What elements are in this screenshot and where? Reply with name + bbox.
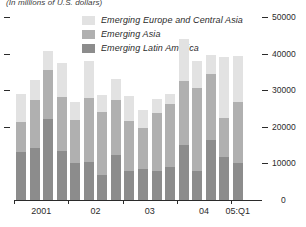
y-tick-label-right: 40000 [272, 49, 296, 59]
bar-segment-eeca [124, 96, 134, 122]
bar-segment-lat [124, 171, 134, 200]
bar-04-Q2 [192, 61, 202, 200]
x-tick-label: 05:Q1 [226, 206, 251, 216]
bar-segment-lat [111, 155, 121, 200]
bar-04-Q1 [179, 39, 189, 200]
bar-04-Q4 [219, 57, 229, 200]
bar-segment-asia [192, 88, 202, 170]
bar-segment-eeca [30, 80, 40, 100]
bar-segment-lat [97, 175, 107, 200]
y-tick-label-right: 20000 [272, 122, 296, 132]
bar-03-Q2 [138, 110, 148, 200]
bar-03-Q3 [152, 99, 162, 200]
bar-segment-asia [138, 128, 148, 169]
y-tick-left [4, 54, 10, 55]
bar-segment-eeca [84, 61, 94, 97]
chart-subtitle: (In millions of U.S. dollars) [6, 0, 102, 7]
x-tick-label: 04 [199, 206, 209, 216]
bar-segment-lat [70, 163, 80, 200]
y-tick-left [4, 17, 10, 18]
bar-segment-eeca [233, 56, 243, 102]
bar-segment-asia [206, 74, 216, 140]
bar-segment-asia [30, 100, 40, 148]
bar-segment-asia [152, 113, 162, 172]
bar-segment-lat [84, 162, 94, 200]
bar-segment-asia [43, 70, 53, 118]
y-tick-label-right: 10000 [272, 158, 296, 168]
bar-segment-lat [192, 171, 202, 200]
bar-segment-asia [57, 97, 67, 151]
bar-segment-asia [111, 100, 121, 154]
bar-segment-lat [43, 119, 53, 200]
bar-segment-asia [84, 98, 94, 162]
y-tick-right [262, 163, 268, 164]
y-tick-right [262, 127, 268, 128]
x-tick [177, 200, 178, 204]
x-tick [231, 200, 232, 204]
bar-03-Q1 [124, 96, 134, 200]
bar-2001-Q1 [16, 94, 26, 200]
bar-02-Q3 [97, 95, 107, 200]
bar-segment-asia [179, 81, 189, 145]
bar-segment-lat [138, 169, 148, 200]
bar-segment-asia [16, 122, 26, 151]
bar-2001-Q4 [57, 63, 67, 200]
y-tick-label-right: 50000 [272, 12, 296, 22]
bar-02-Q2 [84, 61, 94, 200]
bar-segment-eeca [192, 61, 202, 88]
y-tick-right [262, 90, 268, 91]
bar-segment-lat [16, 152, 26, 200]
bar-03-Q4 [165, 94, 175, 200]
chart-container: (In millions of U.S. dollars) Emerging E… [0, 0, 306, 227]
x-tick [123, 200, 124, 204]
bar-segment-lat [219, 157, 229, 200]
bar-segment-asia [233, 102, 243, 163]
bar-segment-eeca [165, 94, 175, 104]
y-tick-label-right: 0 [281, 195, 286, 205]
bar-segment-lat [165, 167, 175, 200]
x-tick [14, 200, 15, 204]
bar-05-Q1 [233, 56, 243, 200]
bar-segment-asia [219, 118, 229, 158]
plot-area [14, 17, 260, 200]
y-tick-left [4, 127, 10, 128]
bar-segment-eeca [152, 99, 162, 113]
bar-segment-lat [233, 163, 243, 200]
bar-segment-eeca [43, 51, 53, 71]
bar-segment-eeca [111, 79, 121, 100]
bar-02-Q1 [70, 102, 80, 200]
y-tick-label-right: 30000 [272, 85, 296, 95]
bar-segment-eeca [97, 95, 107, 113]
y-tick-right [262, 17, 268, 18]
bar-segment-eeca [138, 110, 148, 128]
bar-segment-lat [57, 151, 67, 200]
bar-04-Q3 [206, 55, 216, 200]
bar-segment-eeca [57, 63, 67, 97]
bar-segment-eeca [16, 94, 26, 123]
bar-segment-eeca [219, 57, 229, 118]
bar-2001-Q2 [30, 80, 40, 200]
x-tick-label: 03 [145, 206, 155, 216]
y-tick-left [4, 90, 10, 91]
bar-segment-asia [97, 112, 107, 175]
bar-segment-eeca [179, 39, 189, 81]
bar-segment-lat [206, 140, 216, 200]
bar-segment-eeca [70, 102, 80, 120]
y-tick-right [262, 54, 268, 55]
bar-02-Q4 [111, 79, 121, 200]
bar-segment-asia [165, 104, 175, 167]
x-tick-label: 02 [91, 206, 101, 216]
bar-segment-lat [30, 148, 40, 200]
bar-2001-Q3 [43, 51, 53, 200]
bar-segment-asia [124, 121, 134, 170]
bar-segment-lat [152, 171, 162, 200]
x-axis-baseline [14, 200, 262, 201]
x-tick-label: 2001 [31, 206, 51, 216]
x-tick [68, 200, 69, 204]
bar-segment-asia [70, 120, 80, 163]
bar-segment-eeca [206, 55, 216, 74]
bar-segment-lat [179, 145, 189, 200]
